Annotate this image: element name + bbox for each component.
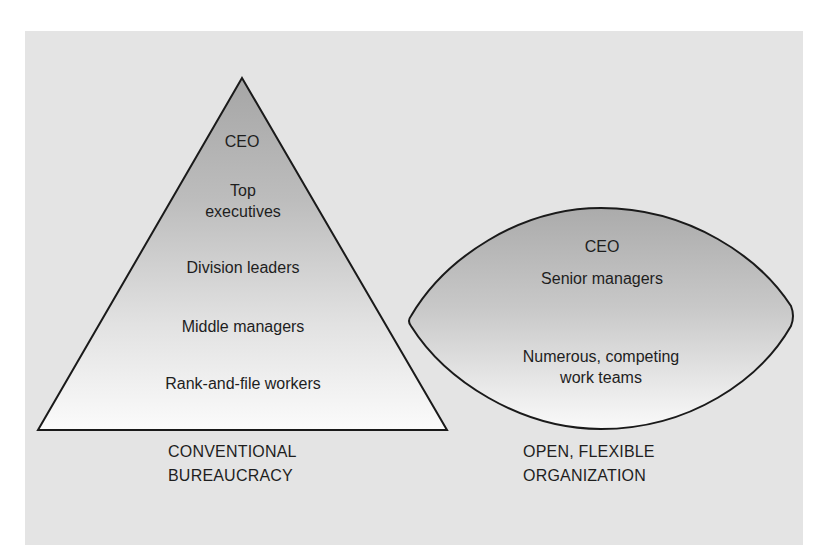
pyramid-level-rank-and-file: Rank-and-file workers	[165, 373, 321, 394]
lens-level-work-teams-line2: work teams	[523, 367, 680, 388]
pyramid-caption-line1: CONVENTIONAL	[168, 440, 297, 464]
lens-level-work-teams: Numerous, competing work teams	[523, 346, 680, 388]
pyramid-level-top-executives: Top executives	[205, 180, 281, 222]
lens-caption-line1: OPEN, FLEXIBLE	[523, 440, 655, 464]
pyramid-level-ceo: CEO	[225, 131, 260, 152]
pyramid-level-division-leaders: Division leaders	[187, 257, 300, 278]
pyramid-caption: CONVENTIONAL BUREAUCRACY	[168, 440, 297, 488]
pyramid-level-top-executives-line1: Top	[205, 180, 281, 201]
lens-level-work-teams-line1: Numerous, competing	[523, 346, 680, 367]
lens-caption-line2: ORGANIZATION	[523, 464, 655, 488]
pyramid-level-top-executives-line2: executives	[205, 201, 281, 222]
lens-level-senior-managers: Senior managers	[541, 268, 663, 289]
pyramid-caption-line2: BUREAUCRACY	[168, 464, 297, 488]
org-structure-diagram	[0, 0, 824, 552]
lens-caption: OPEN, FLEXIBLE ORGANIZATION	[523, 440, 655, 488]
pyramid-level-middle-managers: Middle managers	[182, 316, 305, 337]
lens-level-ceo: CEO	[585, 236, 620, 257]
